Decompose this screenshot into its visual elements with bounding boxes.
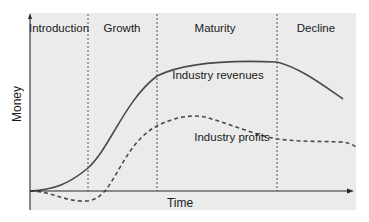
stage-label-growth: Growth xyxy=(103,22,140,34)
x-axis-label: Time xyxy=(167,196,194,210)
industry-life-cycle-diagram: Introduction Growth Maturity Decline Ind… xyxy=(0,0,369,222)
label-industry-profits: Industry profits xyxy=(194,131,270,143)
label-industry-revenues: Industry revenues xyxy=(172,69,264,81)
plot-background xyxy=(30,13,356,210)
stage-label-decline: Decline xyxy=(297,22,335,34)
stage-label-maturity: Maturity xyxy=(195,22,236,34)
stage-label-introduction: Introduction xyxy=(29,22,89,34)
y-axis-label: Money xyxy=(10,86,24,122)
